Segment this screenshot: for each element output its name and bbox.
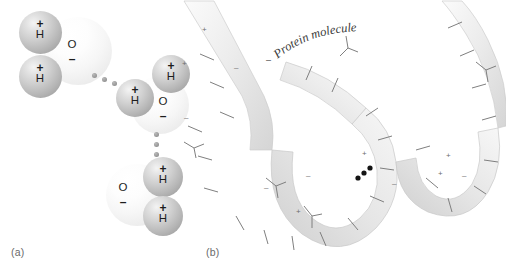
charge-marker: – [266, 55, 271, 65]
atom-symbol: H [30, 73, 50, 85]
charge-marker-crest: – [266, 55, 271, 65]
bond-dot [112, 81, 117, 86]
protein-molecule-label-text: Protein molecule [270, 20, 357, 61]
protein-strand-right [442, 1, 506, 128]
bond-dot [154, 132, 159, 137]
panel-label-a: (a) [11, 246, 24, 258]
charge-marker: – [234, 63, 239, 72]
charge-marker: – [462, 171, 467, 180]
figure-canvas: + H + H O – + H + H O – [0, 0, 506, 279]
atom-symbol: O [153, 96, 173, 108]
panel-label-b: (b) [206, 246, 219, 258]
charge-marker: + [296, 207, 301, 216]
charge-marker: – [392, 179, 397, 188]
charge-marker: + [446, 151, 451, 160]
atom-symbol: H [153, 213, 173, 225]
atom-symbol: H [161, 71, 181, 83]
protein-molecule-label: Protein molecule [270, 20, 357, 61]
charge-label: – [153, 110, 173, 122]
protein-ribbon-illustration: + – + – + – + – + – + – – [180, 0, 506, 279]
protein-strand-middle [280, 62, 366, 124]
atom-symbol: O [113, 182, 133, 194]
atom-symbol: H [30, 29, 50, 41]
charge-marker: + [202, 25, 207, 34]
charge-marker: – [184, 113, 189, 122]
charge-label: – [62, 53, 82, 65]
protein-strand-upper-left [184, 1, 273, 150]
charge-marker: – [306, 171, 311, 180]
atom-symbol: H [153, 174, 173, 186]
panel-b-protein: + – + – + – + – + – + – – [180, 0, 506, 279]
protein-loop-left [271, 108, 397, 247]
charge-marker: + [362, 149, 367, 158]
bond-dot [102, 77, 107, 82]
bond-dot [154, 142, 159, 147]
bond-dot [367, 165, 372, 170]
atom-symbol: O [62, 39, 82, 51]
charge-marker: + [438, 169, 443, 178]
protein-hydrogen-bond [355, 165, 372, 180]
protein-loop-right [396, 128, 500, 216]
charge-marker: + [182, 59, 187, 68]
charge-label: – [113, 196, 133, 208]
charge-marker: – [264, 183, 269, 192]
bond-dot [361, 170, 366, 175]
bond-dot [355, 175, 360, 180]
atom-symbol: H [125, 95, 145, 107]
